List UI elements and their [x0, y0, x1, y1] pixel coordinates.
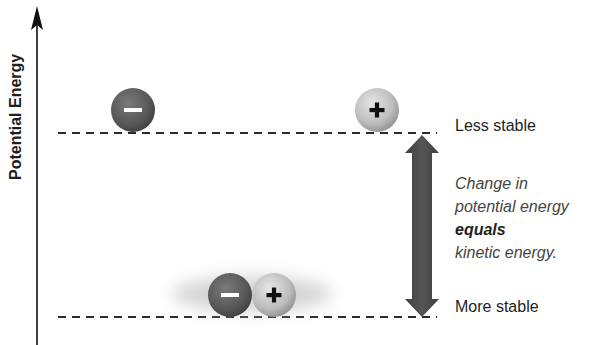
negative-ion-top: [111, 88, 155, 132]
explanation-line-1: Change in: [455, 172, 569, 195]
positive-ion-top: [355, 88, 399, 132]
motion-blur: [172, 276, 332, 312]
explanation-line-4: kinetic energy.: [455, 241, 569, 264]
less-stable-label: Less stable: [455, 117, 536, 135]
y-axis: [31, 6, 43, 345]
explanation-text: Change in potential energy equals kineti…: [455, 172, 569, 264]
y-axis-label: Potential Energy: [7, 54, 25, 180]
negative-ion-bottom: [208, 273, 252, 317]
double-arrow-icon: [405, 135, 439, 317]
more-stable-label: More stable: [455, 298, 539, 316]
positive-ion-bottom: [252, 273, 296, 317]
explanation-line-3: equals: [455, 218, 569, 241]
explanation-line-2: potential energy: [455, 195, 569, 218]
